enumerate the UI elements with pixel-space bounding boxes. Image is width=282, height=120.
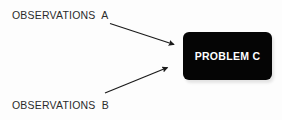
arrow-observations-b-to-problem (105, 68, 168, 94)
arrow-observations-a-to-problem (110, 24, 174, 45)
problem-box: PROBLEM C (183, 32, 272, 80)
problem-box-label: PROBLEM C (195, 50, 261, 62)
diagram-canvas: OBSERVATIONS A OBSERVATIONS B PROBLEM C (0, 0, 282, 120)
